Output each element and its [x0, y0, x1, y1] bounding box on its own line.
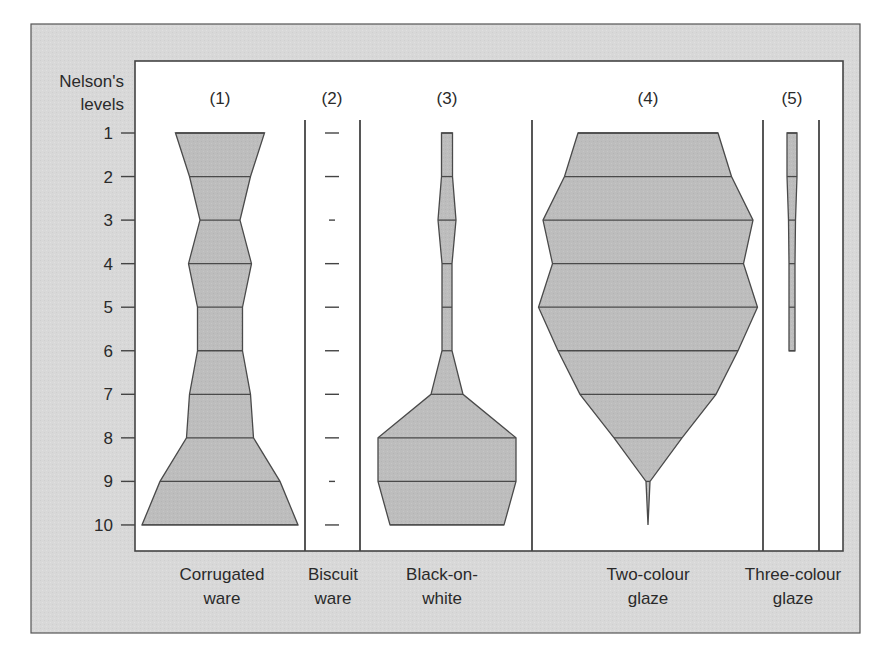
- column-name: white: [421, 589, 462, 608]
- battleship-chart: Nelson's levels 12345678910 (1)(2)(3)(4)…: [0, 0, 891, 658]
- vessel-outline: [787, 133, 797, 351]
- y-tick-label: 8: [104, 429, 113, 448]
- column-number: (1): [210, 89, 231, 108]
- column-name: Corrugated: [179, 565, 264, 584]
- vessel-5: [787, 133, 797, 351]
- y-tick-label: 10: [94, 516, 113, 535]
- y-tick-label: 3: [104, 211, 113, 230]
- column-number: (4): [638, 89, 659, 108]
- y-tick-label: 9: [104, 472, 113, 491]
- column-name: ware: [203, 589, 241, 608]
- column-number: (2): [322, 89, 343, 108]
- column-number: (3): [437, 89, 458, 108]
- column-name: Biscuit: [308, 565, 358, 584]
- y-axis-label-line1: Nelson's: [59, 72, 124, 91]
- column-number: (5): [782, 89, 803, 108]
- column-name: Black-on-: [406, 565, 478, 584]
- y-tick-label: 2: [104, 168, 113, 187]
- y-tick-label: 6: [104, 342, 113, 361]
- y-tick-label: 7: [104, 385, 113, 404]
- column-name: Two-colour: [606, 565, 689, 584]
- y-tick-label: 5: [104, 298, 113, 317]
- y-tick-label: 4: [104, 255, 113, 274]
- y-axis-label-line2: levels: [81, 95, 124, 114]
- column-name: Three-colour: [745, 565, 842, 584]
- y-tick-label: 1: [104, 124, 113, 143]
- column-name: glaze: [773, 589, 814, 608]
- column-name: ware: [314, 589, 352, 608]
- column-name: glaze: [628, 589, 669, 608]
